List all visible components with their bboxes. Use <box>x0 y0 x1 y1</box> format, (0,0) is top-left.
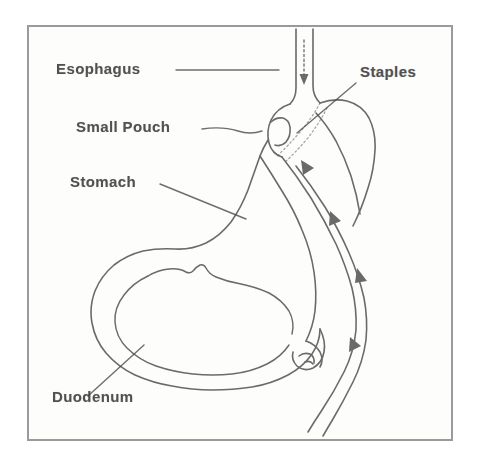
label-small-pouch: Small Pouch <box>76 118 170 135</box>
label-stomach: Stomach <box>70 173 136 190</box>
label-duodenum: Duodenum <box>52 388 134 405</box>
label-esophagus: Esophagus <box>56 60 140 77</box>
gastric-bypass-figure: Esophagus Small Pouch Stomach Duodenum S… <box>0 0 481 463</box>
diagram-frame <box>27 25 453 441</box>
label-staples: Staples <box>360 63 416 80</box>
